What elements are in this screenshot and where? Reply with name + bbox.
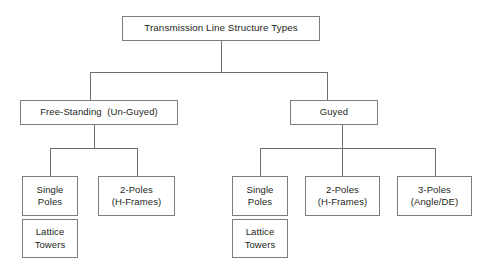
node-free-standing-single-poles: Single Poles — [22, 176, 78, 216]
connector-level1-drop-left — [90, 72, 91, 100]
node-label-line-2: (H-Frames) — [318, 196, 368, 208]
node-guyed: Guyed — [290, 100, 378, 125]
node-label-line-1: 2-Poles — [120, 184, 153, 196]
node-label: Transmission Line Structure Types — [144, 22, 298, 35]
node-free-standing-2-poles-h-frames: 2-Poles (H-Frames) — [98, 176, 175, 216]
node-label-line-1: 3-Poles — [418, 184, 451, 196]
node-guyed-2-poles-h-frames: 2-Poles (H-Frames) — [305, 176, 380, 216]
node-label-line-2: Poles — [248, 196, 272, 208]
node-free-standing-un-guyed: Free-Standing (Un-Guyed) — [20, 100, 178, 125]
node-label-line-2: (H-Frames) — [112, 196, 162, 208]
connector-level1-bar — [90, 72, 328, 73]
node-label-line-2: (Angle/DE) — [411, 196, 458, 208]
connector-root-stem — [221, 41, 222, 72]
node-label-line-1: Lattice — [246, 226, 275, 238]
org-chart-diagram: Transmission Line Structure Types Free-S… — [0, 0, 493, 274]
node-label-line-1: 2-Poles — [326, 184, 359, 196]
node-guyed-single-poles: Single Poles — [232, 176, 288, 216]
connector-right-bar — [260, 148, 436, 149]
node-label: Free-Standing (Un-Guyed) — [40, 106, 158, 118]
connector-left-drop-2 — [137, 148, 138, 176]
connector-left-drop-1 — [50, 148, 51, 176]
connector-left-bar — [50, 148, 138, 149]
connector-right-drop-2 — [342, 148, 343, 176]
node-label-line-1: Single — [36, 184, 63, 196]
connector-level1-drop-right — [327, 72, 328, 100]
node-guyed-lattice-towers: Lattice Towers — [232, 219, 288, 258]
node-label-line-2: Towers — [35, 239, 66, 251]
node-transmission-line-structure-types: Transmission Line Structure Types — [122, 16, 320, 41]
connector-right-drop-1 — [260, 148, 261, 176]
node-label-line-2: Towers — [245, 239, 276, 251]
node-guyed-3-poles-angle-de: 3-Poles (Angle/DE) — [397, 176, 472, 216]
connector-right-stem — [342, 125, 343, 148]
node-free-standing-lattice-towers: Lattice Towers — [22, 219, 78, 258]
node-label-line-1: Lattice — [36, 226, 65, 238]
node-label: Guyed — [320, 106, 349, 118]
connector-right-drop-3 — [435, 148, 436, 176]
node-label-line-1: Single — [246, 184, 273, 196]
connector-left-stem — [94, 125, 95, 148]
node-label-line-2: Poles — [38, 196, 62, 208]
